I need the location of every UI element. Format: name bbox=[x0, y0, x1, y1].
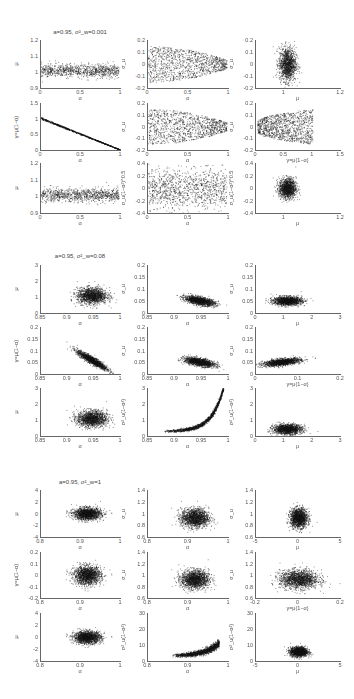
x-tick-label: 1 bbox=[226, 538, 229, 544]
scatter-points bbox=[41, 327, 121, 374]
x-tick-label: -0.2 bbox=[250, 599, 259, 605]
y-axis-label: σ_u bbox=[120, 122, 126, 132]
y-axis-label: σ_u bbox=[228, 122, 234, 132]
x-axis-label: α bbox=[186, 320, 189, 326]
x-tick-label: 0.95 bbox=[196, 375, 207, 381]
x-tick-label: 1 bbox=[118, 375, 121, 381]
x-tick-label: 1 bbox=[118, 214, 121, 220]
plot-axes bbox=[255, 163, 341, 214]
scatter-points bbox=[256, 327, 341, 374]
y-tick-label: 0.1 bbox=[20, 348, 38, 354]
plot-axes bbox=[255, 40, 341, 89]
x-tick-label: -5 bbox=[253, 662, 258, 668]
scatter-points bbox=[148, 163, 229, 213]
x-axis-label: μ bbox=[296, 443, 299, 449]
y-axis-label: μ bbox=[13, 410, 19, 413]
y-tick-label: 1 bbox=[127, 417, 145, 423]
y-tick-label: 1 bbox=[20, 116, 38, 122]
y-tick-label: 1 bbox=[20, 193, 38, 199]
y-tick-label: 0.2 bbox=[235, 262, 253, 268]
y-tick-label: 1 bbox=[127, 572, 145, 578]
y-tick-label: 1 bbox=[235, 417, 253, 423]
y-tick-label: 0.1 bbox=[127, 348, 145, 354]
y-tick-label: 1.4 bbox=[127, 549, 145, 555]
y-axis-label: μ bbox=[13, 186, 19, 189]
y-axis-label: σ_u bbox=[228, 509, 234, 519]
x-axis-label: α bbox=[78, 668, 81, 674]
y-tick-label: 1.4 bbox=[235, 549, 253, 555]
y-tick-label: -0.2 bbox=[235, 198, 253, 204]
y-tick-label: -2 bbox=[20, 646, 38, 652]
x-tick-label: 0.2 bbox=[336, 599, 344, 605]
x-tick-label: 0 bbox=[38, 214, 41, 220]
y-tick-label: 0.2 bbox=[20, 549, 38, 555]
y-tick-label: 1.4 bbox=[235, 487, 253, 493]
plot-axes bbox=[147, 163, 229, 214]
y-tick-label: 1.5 bbox=[20, 100, 38, 106]
plot-axes bbox=[255, 552, 341, 599]
x-tick-label: 0 bbox=[253, 314, 256, 320]
block-title-1: a=0.95, σ²_w=0.001 bbox=[53, 29, 107, 35]
x-tick-label: 0.95 bbox=[88, 314, 99, 320]
y-tick-label: 0 bbox=[127, 61, 145, 67]
x-tick-label: 2 bbox=[310, 437, 313, 443]
y-tick-label: 1 bbox=[20, 69, 38, 75]
y-tick-label: 0 bbox=[235, 124, 253, 130]
y-axis-label: γ=μ(1−α) bbox=[13, 115, 19, 137]
y-axis-label: σ_u bbox=[228, 570, 234, 580]
x-tick-label: 0.85 bbox=[142, 314, 153, 320]
y-tick-label: 0 bbox=[235, 433, 253, 439]
plot-axes bbox=[147, 613, 229, 662]
x-tick-label: 0.8 bbox=[143, 538, 151, 544]
scatter-points bbox=[256, 265, 341, 313]
y-axis-label: σ²_u(1−α²) bbox=[228, 399, 234, 425]
x-tick-label: 0.85 bbox=[142, 375, 153, 381]
x-axis-label: α bbox=[186, 95, 189, 101]
x-tick-label: 1 bbox=[282, 214, 285, 220]
scatter-points bbox=[41, 265, 121, 313]
y-tick-label: 4 bbox=[20, 487, 38, 493]
y-tick-label: -0.4 bbox=[235, 210, 253, 216]
x-axis-label: α bbox=[186, 220, 189, 226]
x-tick-label: 0.9 bbox=[170, 375, 178, 381]
y-axis-label: μ bbox=[13, 635, 19, 638]
plot-axes bbox=[255, 103, 341, 151]
scatter-points bbox=[256, 388, 341, 436]
x-tick-label: 1 bbox=[118, 151, 121, 157]
y-axis-label: μ bbox=[13, 512, 19, 515]
scatter-points bbox=[256, 552, 341, 598]
y-tick-label: -0.2 bbox=[127, 85, 145, 91]
y-tick-label: 0.8 bbox=[235, 522, 253, 528]
x-tick-label: 3 bbox=[338, 437, 341, 443]
plot-axes bbox=[40, 40, 121, 89]
y-tick-label: 2 bbox=[20, 499, 38, 505]
y-axis-label: σ_u bbox=[120, 570, 126, 580]
y-axis-label: σ²_u(1−α²) bbox=[120, 399, 126, 425]
y-tick-label: 0.5 bbox=[20, 131, 38, 137]
y-tick-label: 2 bbox=[20, 401, 38, 407]
plot-axes bbox=[40, 163, 121, 214]
y-tick-label: 0 bbox=[235, 371, 253, 377]
y-tick-label: 10 bbox=[235, 642, 253, 648]
y-tick-label: 10 bbox=[127, 642, 145, 648]
y-tick-label: 0.1 bbox=[235, 49, 253, 55]
x-tick-label: 0.85 bbox=[35, 375, 46, 381]
x-tick-label: 1 bbox=[118, 599, 121, 605]
plot-axes bbox=[255, 388, 341, 437]
x-tick-label: 0.9 bbox=[170, 314, 178, 320]
x-tick-label: 0.95 bbox=[196, 437, 207, 443]
y-axis-label: σ_u(1−α²)^0.5 bbox=[120, 171, 126, 206]
y-tick-label: 1.2 bbox=[235, 561, 253, 567]
y-tick-label: -0.1 bbox=[235, 135, 253, 141]
y-tick-label: 0.2 bbox=[235, 324, 253, 330]
x-tick-label: 0.9 bbox=[63, 314, 71, 320]
y-tick-label: 2 bbox=[20, 622, 38, 628]
x-tick-label: 0 bbox=[253, 437, 256, 443]
y-tick-label: -2 bbox=[20, 522, 38, 528]
y-tick-label: 30 bbox=[127, 610, 145, 616]
y-tick-label: 0.05 bbox=[235, 359, 253, 365]
x-tick-label: 0.85 bbox=[35, 314, 46, 320]
y-tick-label: 0.2 bbox=[127, 37, 145, 43]
x-tick-label: 0.95 bbox=[196, 314, 207, 320]
x-axis-label: γ=μ(1−α) bbox=[286, 381, 308, 387]
